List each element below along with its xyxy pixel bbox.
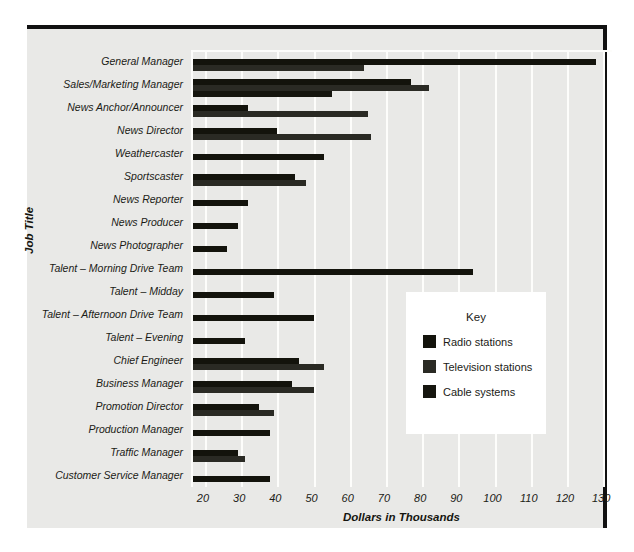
y-axis-tick-label: Talent – Midday	[109, 286, 183, 297]
x-axis-tick-label: 50	[305, 492, 317, 504]
chart-figure: Job Title General ManagerSales/Marketing…	[27, 25, 607, 528]
x-axis-tick-label: 90	[450, 492, 462, 504]
bar	[193, 246, 227, 252]
bar	[193, 223, 238, 229]
y-axis-tick-label: Chief Engineer	[114, 355, 183, 366]
y-axis-tick-label: Talent – Evening	[105, 332, 183, 343]
y-axis-tick-label: News Director	[117, 125, 183, 136]
bar-group	[193, 305, 612, 328]
y-axis-tick-label: Promotion Director	[95, 401, 183, 412]
x-axis-tick-label: 20	[197, 492, 209, 504]
bar	[193, 269, 473, 275]
legend-items: Radio stationsTelevision stationsCable s…	[406, 335, 546, 398]
bar	[193, 65, 364, 71]
y-axis-tick-label: News Reporter	[113, 194, 183, 205]
legend-swatch	[423, 335, 436, 348]
x-axis-tick-label: 110	[520, 492, 538, 504]
legend-label: Radio stations	[443, 336, 513, 348]
bar-group	[193, 144, 612, 167]
bar	[193, 134, 371, 140]
legend: Key Radio stationsTelevision stationsCab…	[406, 292, 546, 434]
bar-group	[193, 121, 612, 144]
bar-group	[193, 420, 612, 443]
x-axis-tick-label: 130	[592, 492, 610, 504]
bar-group	[193, 190, 612, 213]
bar	[193, 154, 324, 160]
x-axis-tick-label: 70	[378, 492, 390, 504]
bar-rows	[193, 52, 612, 487]
y-axis-tick-label: News Photographer	[90, 240, 183, 251]
plot-area	[191, 50, 612, 487]
x-axis-tick-label: 100	[483, 492, 501, 504]
bar-group	[193, 443, 612, 466]
legend-swatch	[423, 360, 436, 373]
bar-group	[193, 282, 612, 305]
bar-group	[193, 52, 612, 75]
bar	[193, 180, 306, 186]
bar	[193, 200, 248, 206]
y-axis-tick-label: Business Manager	[96, 378, 183, 389]
bar	[193, 111, 368, 117]
bar	[193, 387, 314, 393]
bar	[193, 292, 274, 298]
bar-group	[193, 213, 612, 236]
bar	[193, 410, 274, 416]
legend-item: Radio stations	[423, 335, 546, 348]
bar-group	[193, 374, 612, 397]
x-axis-title: Dollars in Thousands	[191, 511, 612, 523]
y-axis-tick-label: News Producer	[111, 217, 183, 228]
x-axis-tick-label: 30	[233, 492, 245, 504]
bar	[193, 456, 245, 462]
bar-group	[193, 167, 612, 190]
legend-item: Television stations	[423, 360, 546, 373]
legend-item: Cable systems	[423, 385, 546, 398]
legend-title: Key	[406, 311, 546, 323]
bar-group	[193, 397, 612, 420]
y-axis-tick-label: Customer Service Manager	[55, 470, 183, 481]
bar	[193, 364, 324, 370]
bar-group	[193, 236, 612, 259]
x-axis-tick-label: 120	[556, 492, 574, 504]
legend-label: Cable systems	[443, 386, 515, 398]
y-axis-tick-label: Talent – Morning Drive Team	[49, 263, 183, 274]
bar	[193, 430, 270, 436]
bar-group	[193, 351, 612, 374]
legend-swatch	[423, 385, 436, 398]
bar	[193, 91, 332, 97]
bar-group	[193, 98, 612, 121]
bar	[193, 338, 245, 344]
legend-label: Television stations	[443, 361, 532, 373]
bar	[193, 476, 270, 482]
x-axis-tick-label: 40	[269, 492, 281, 504]
y-axis-tick-label: Sportscaster	[124, 171, 183, 182]
x-axis-tick-label: 80	[414, 492, 426, 504]
y-axis-tick-label: Traffic Manager	[110, 447, 183, 458]
bar	[193, 315, 314, 321]
bar-group	[193, 259, 612, 282]
y-axis-tick-label: General Manager	[101, 56, 183, 67]
y-axis-tick-label: Weathercaster	[115, 148, 183, 159]
bar-group	[193, 466, 612, 487]
y-axis-tick-label: Talent – Afternoon Drive Team	[42, 309, 183, 320]
y-axis-tick-label: News Anchor/Announcer	[67, 102, 183, 113]
bar-group	[193, 328, 612, 351]
y-axis-tick-label: Production Manager	[88, 424, 183, 435]
bar-group	[193, 75, 612, 98]
x-axis-tick-label: 60	[342, 492, 354, 504]
y-axis-tick-labels: General ManagerSales/Marketing ManagerNe…	[27, 50, 187, 487]
y-axis-tick-label: Sales/Marketing Manager	[63, 79, 183, 90]
